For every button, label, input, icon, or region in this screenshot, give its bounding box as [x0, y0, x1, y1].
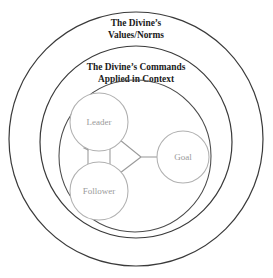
node-leader[interactable]: Leader [70, 93, 128, 151]
node-leader-label: Leader [87, 117, 112, 127]
connector-follower-to-junction [120, 157, 141, 173]
concentric-circle-diagram: The Divine’s Values/Norms The Divine’s C… [0, 0, 273, 278]
node-goal-label: Goal [174, 152, 192, 162]
outer-ring-label-line2: Values/Norms [108, 30, 164, 40]
outer-ring-label-line1: The Divine’s [111, 18, 162, 28]
diagram-canvas: The Divine’s Values/Norms The Divine’s C… [0, 0, 273, 278]
outer-ring-circle [9, 12, 263, 266]
node-goal[interactable]: Goal [157, 131, 209, 183]
node-follower[interactable]: Follower [70, 162, 128, 220]
connector-leader-to-junction [120, 140, 141, 157]
node-follower-label: Follower [83, 186, 116, 196]
middle-ring-label-line1: The Divine’s Commands [87, 62, 186, 72]
middle-ring-label-line2: Applied in Context [98, 74, 175, 84]
